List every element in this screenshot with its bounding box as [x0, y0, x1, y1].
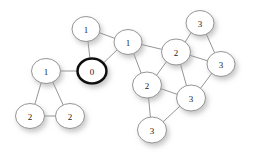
graph-edge	[190, 55, 207, 60]
graph-canvas: 011122223333	[0, 0, 253, 159]
graph-edge	[53, 82, 63, 105]
graph-node-label: 3	[150, 126, 155, 136]
graph-edge	[206, 34, 214, 53]
graph-node[interactable]: 2	[162, 39, 191, 65]
graph-node[interactable]: 3	[186, 11, 214, 36]
graph-edge	[134, 53, 141, 73]
graph-edge	[181, 64, 187, 85]
graph-node[interactable]: 2	[16, 104, 45, 129]
graph-node-label: 0	[90, 67, 95, 77]
nodes-layer: 011122223333	[16, 11, 236, 144]
graph-edge	[103, 50, 117, 63]
graph-node[interactable]: 2	[56, 104, 85, 129]
graph-node[interactable]: 3	[138, 117, 167, 143]
graph-node-label: 3	[198, 19, 203, 29]
graph-diagram: 011122223333	[0, 0, 253, 159]
graph-edge	[201, 73, 212, 88]
graph-node-label: 2	[68, 112, 73, 122]
graph-edge	[185, 33, 191, 42]
graph-node-label: 2	[145, 81, 150, 91]
graph-node[interactable]: 3	[177, 85, 206, 111]
graph-edge	[35, 83, 41, 104]
graph-edge	[149, 98, 151, 117]
graph-edge	[161, 89, 177, 95]
graph-node[interactable]: 1	[72, 17, 100, 42]
graph-node-label: 2	[28, 112, 33, 122]
graph-node-label: 1	[44, 67, 49, 77]
graph-edge	[88, 41, 90, 58]
graph-edge	[142, 45, 162, 50]
graph-node-label: 1	[84, 25, 89, 35]
graph-node[interactable]: 0	[78, 59, 107, 84]
graph-node[interactable]: 1	[114, 30, 142, 55]
graph-node-label: 3	[189, 94, 194, 104]
graph-node-label: 2	[174, 48, 179, 58]
graph-edge	[99, 33, 114, 39]
graph-node[interactable]: 1	[32, 59, 61, 84]
graph-node[interactable]: 2	[133, 72, 162, 98]
graph-edge	[157, 62, 167, 75]
graph-node[interactable]: 3	[207, 52, 235, 77]
graph-node-label: 3	[219, 60, 224, 70]
graph-node-label: 1	[126, 38, 131, 48]
graph-edge	[163, 106, 180, 122]
